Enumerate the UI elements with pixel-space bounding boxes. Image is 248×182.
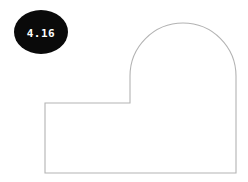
value-badge-label: 4.16 xyxy=(27,27,56,40)
figure-root: 4.16 xyxy=(0,0,248,182)
figure-canvas: 4.16 xyxy=(0,0,248,182)
